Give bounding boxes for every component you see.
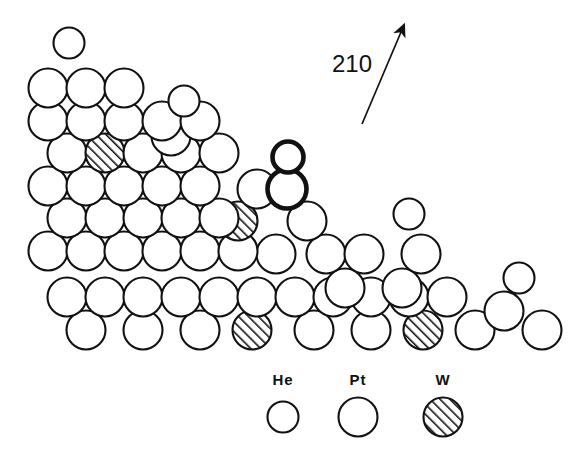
atom-pt-open bbox=[428, 278, 467, 317]
legend-label-helium: He bbox=[272, 371, 293, 388]
atom-lattice bbox=[0, 0, 574, 465]
atom-pt-open bbox=[276, 278, 315, 317]
legend-label-platinum: Pt bbox=[350, 371, 367, 388]
atom-pt-open bbox=[162, 278, 201, 317]
direction-label: 210 bbox=[332, 50, 372, 78]
legend-symbol-tungsten bbox=[424, 398, 463, 437]
legend-symbol-helium bbox=[268, 402, 299, 433]
legend-symbol-platinum bbox=[339, 398, 378, 437]
atom-he-open bbox=[394, 199, 425, 230]
atom-he-open bbox=[504, 263, 535, 294]
surface-model-figure: HePtW 210 bbox=[0, 0, 574, 465]
atom-pt-open-bold bbox=[268, 170, 307, 209]
atom-pt-open bbox=[257, 235, 296, 274]
atom-pt-open bbox=[326, 269, 365, 308]
atom-pt-open bbox=[383, 269, 422, 308]
atom-pt-open bbox=[105, 69, 144, 108]
atom-pt-open bbox=[402, 235, 441, 274]
atom-he-open-bold bbox=[273, 142, 304, 173]
atom-pt-open bbox=[523, 311, 562, 350]
atom-pt-open bbox=[485, 292, 524, 331]
atom-pt-open bbox=[200, 278, 239, 317]
atom-pt-open bbox=[29, 69, 68, 108]
legend-label-tungsten: W bbox=[435, 371, 450, 388]
atom-pt-open bbox=[124, 278, 163, 317]
atom-pt-open bbox=[48, 278, 87, 317]
atom-pt-open bbox=[238, 278, 277, 317]
legend-symbols bbox=[268, 398, 463, 437]
atom-pt-open bbox=[67, 69, 106, 108]
atom-pt-open bbox=[345, 235, 384, 274]
atom-pt-open bbox=[86, 278, 125, 317]
atom-he-open bbox=[54, 28, 85, 59]
atom-layer bbox=[29, 28, 562, 350]
atom-he-open bbox=[169, 86, 200, 117]
